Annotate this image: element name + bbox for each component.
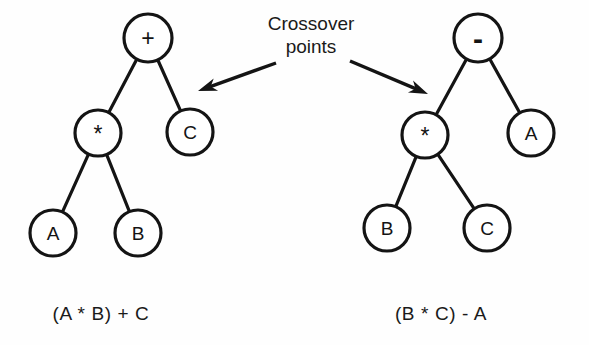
- tree-edge-R-mul-to-R-c: [437, 153, 475, 209]
- node-label-r-root: -: [473, 22, 483, 55]
- tree-node-l-a[interactable]: A: [30, 210, 76, 256]
- node-label-r-b: B: [381, 218, 394, 239]
- arrow-left-shaft: [210, 63, 276, 87]
- tree-edge-L-root-to-L-mul: [108, 58, 137, 113]
- crossover-annotation-line1: Crossover: [268, 13, 355, 34]
- node-label-l-mul: *: [94, 121, 103, 147]
- tree-node-r-b[interactable]: B: [364, 205, 410, 251]
- node-label-r-a: A: [525, 123, 538, 144]
- diagram-text-layer: Crossover points (A * B) + C (B * C) - A: [53, 13, 488, 324]
- arrow-right: [350, 61, 428, 94]
- tree-node-r-mul[interactable]: *: [402, 112, 448, 158]
- node-label-l-root: +: [141, 25, 154, 51]
- tree-node-l-c[interactable]: C: [167, 109, 213, 155]
- node-label-l-c: C: [183, 122, 197, 143]
- node-label-r-mul: *: [421, 123, 430, 149]
- crossover-annotation-line2: points: [286, 36, 337, 57]
- left-tree-caption: (A * B) + C: [53, 303, 150, 324]
- arrow-right-shaft: [350, 61, 416, 89]
- crossover-diagram: +*CAB-*ABC Crossover points (A * B) + C …: [0, 0, 589, 345]
- tree-node-l-root[interactable]: +: [124, 14, 172, 62]
- tree-node-r-c[interactable]: C: [464, 205, 510, 251]
- node-label-l-b: B: [132, 223, 145, 244]
- tree-node-l-mul[interactable]: *: [75, 110, 121, 156]
- tree-edge-L-root-to-L-c: [157, 59, 181, 112]
- tree-node-r-a[interactable]: A: [508, 110, 554, 156]
- tree-edge-R-mul-to-R-b: [395, 155, 416, 207]
- node-label-l-a: A: [47, 223, 60, 244]
- tree-edge-L-mul-to-L-b: [106, 153, 130, 212]
- crossover-arrows-layer: [198, 61, 428, 94]
- tree-edge-R-root-to-R-a: [489, 58, 520, 114]
- diagram-canvas: +*CAB-*ABC Crossover points (A * B) + C …: [0, 0, 589, 345]
- tree-edges-layer: [62, 58, 520, 213]
- node-label-r-c: C: [480, 218, 494, 239]
- tree-edge-R-root-to-R-mul: [436, 58, 467, 116]
- right-tree-caption: (B * C) - A: [395, 303, 487, 324]
- tree-node-l-b[interactable]: B: [115, 210, 161, 256]
- arrow-left: [198, 63, 276, 91]
- tree-node-r-root[interactable]: -: [454, 14, 502, 62]
- tree-edge-L-mul-to-L-a: [62, 153, 89, 213]
